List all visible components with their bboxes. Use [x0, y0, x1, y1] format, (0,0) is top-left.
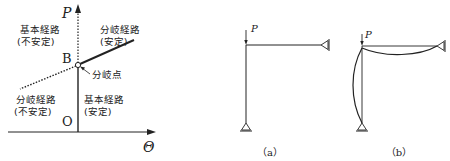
p-axis-label: P: [61, 5, 72, 21]
figure-canvas: P Θ O B 分岐点 基本経路 (不安定) 分岐経路 (安定) 分岐経路 (不…: [0, 0, 450, 161]
bifurcation-diagram: P Θ O B 分岐点 基本経路 (不安定) 分岐経路 (安定) 分岐経路 (不…: [8, 4, 156, 155]
upper-right-region-title: 分岐経路: [100, 24, 140, 35]
load-label: P: [250, 23, 258, 34]
lower-right-region-status: (安定): [84, 106, 111, 117]
p-axis-arrow-icon: [75, 4, 81, 13]
frame-b-caption: （b）: [386, 147, 412, 158]
upper-right-region-status: (安定): [100, 36, 127, 47]
theta-axis-label: Θ: [143, 139, 155, 155]
bifurcation-path-unstable-line: [20, 66, 76, 89]
bifurcation-point-marker: [75, 62, 80, 67]
upper-left-region-status: (不安定): [17, 36, 54, 47]
right-pin-support-icon: [437, 42, 444, 51]
load-arrow-icon: [244, 40, 247, 45]
theta-axis-arrow-icon: [147, 129, 156, 135]
frame-b-diagram: P （b）: [353, 29, 445, 158]
origin-label: O: [62, 114, 73, 129]
point-b-label: B: [62, 51, 72, 66]
bottom-pin-support-icon: [358, 123, 367, 130]
buckled-beam-shape: [362, 46, 437, 55]
buckled-column-shape: [353, 48, 362, 123]
load-arrow-icon: [360, 41, 363, 46]
lower-left-region-title: 分岐経路: [16, 94, 56, 105]
frame-a-caption: （a）: [257, 147, 283, 158]
lower-right-region-title: 基本経路: [84, 94, 124, 105]
frame-a-diagram: P （a）: [240, 23, 329, 158]
bottom-pin-support-icon: [242, 123, 251, 130]
upper-left-region-title: 基本経路: [20, 24, 60, 35]
bifurcation-point-label: 分岐点: [92, 69, 122, 80]
lower-left-region-status: (不安定): [14, 106, 51, 117]
load-label: P: [364, 29, 372, 40]
right-pin-support-icon: [321, 41, 328, 50]
